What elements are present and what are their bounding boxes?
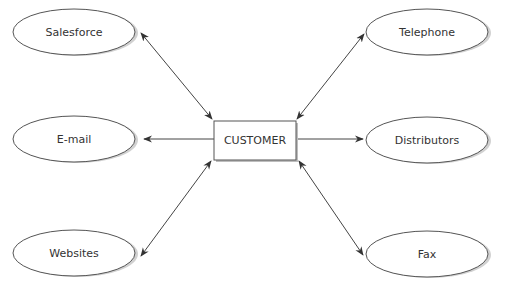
arrow-customer-fax [299,161,363,255]
node-label: E-mail [57,133,92,146]
node-distributors: Distributors [366,117,491,164]
node-label: Salesforce [46,26,103,39]
arrow-customer-websites [141,161,211,256]
customer-channels-diagram: SalesforceE-mailWebsitesTelephoneDistrib… [0,0,506,291]
node-fax: Fax [366,231,491,278]
customer-node: CUSTOMER [214,121,298,162]
node-label: Fax [418,248,437,261]
node-label: Distributors [395,134,460,147]
node-salesforce: Salesforce [13,9,138,56]
node-email: E-mail [13,116,138,163]
arrow-customer-salesforce [141,33,212,119]
node-label: Websites [49,247,99,260]
node-telephone: Telephone [366,9,491,56]
node-label: Telephone [398,26,455,39]
node-websites: Websites [13,230,138,277]
arrow-customer-telephone [297,34,364,119]
customer-label: CUSTOMER [224,134,287,147]
